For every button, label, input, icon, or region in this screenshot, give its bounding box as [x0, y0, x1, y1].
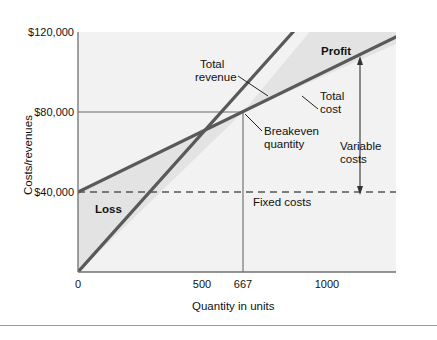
x-tick-667: 667: [227, 278, 259, 290]
x-tick-0: 0: [68, 278, 88, 290]
y-tick-120000: $120,000: [12, 26, 74, 38]
chart-canvas: [0, 0, 437, 340]
x-tick-500: 500: [186, 278, 218, 290]
x-tick-1000: 1000: [311, 278, 343, 290]
annotation-breakeven-line2: quantity: [264, 138, 304, 151]
annotation-total-cost-line2: cost: [320, 103, 341, 116]
x-axis-title: Quantity in units: [192, 300, 274, 312]
annotation-fixed-costs: Fixed costs: [253, 196, 311, 209]
annotation-variable-costs-line1: Variable: [340, 140, 381, 153]
annotation-total-cost-line1: Total: [320, 90, 344, 103]
annotation-breakeven-line1: Breakeven: [264, 125, 319, 138]
annotation-loss: Loss: [95, 203, 122, 215]
breakeven-chart-figure: $120,000 $80,000 $40,000 0 500 667 1000 …: [0, 0, 437, 340]
annotation-total-revenue-line1: Total: [200, 58, 224, 71]
annotation-variable-costs-line2: costs: [340, 153, 367, 166]
figure-bottom-rule: [0, 325, 437, 326]
annotation-profit: Profit: [321, 45, 351, 57]
annotation-total-revenue-line2: revenue: [195, 71, 237, 84]
y-axis-title: Costs/revenues: [22, 115, 34, 195]
